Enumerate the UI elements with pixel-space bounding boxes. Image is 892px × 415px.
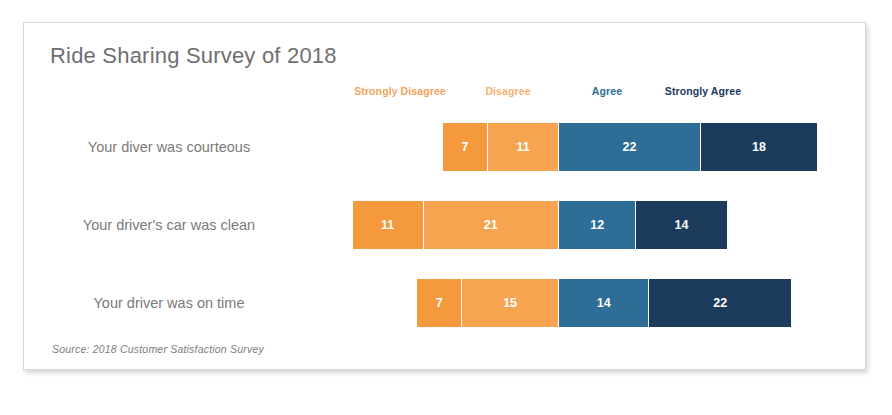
bar-track: 1571422 (24, 279, 865, 327)
bar-row: Your diver was courteous1172218 (24, 123, 865, 171)
legend-item-disagree[interactable]: Disagree (485, 85, 530, 97)
bar-segment-disagree[interactable]: 15 (462, 279, 559, 327)
chart-card: Ride Sharing Survey of 2018 Strongly Dis… (23, 22, 866, 370)
bar-segment-strongly-agree[interactable]: 18 (701, 123, 817, 171)
bar-segment-strongly-disagree[interactable]: 11 (353, 201, 424, 249)
legend-item-strongly-disagree[interactable]: Strongly Disagree (354, 85, 446, 97)
bar-segment-agree[interactable]: 14 (559, 279, 649, 327)
bar-segment-strongly-agree[interactable]: 14 (636, 201, 726, 249)
bar-segment-disagree[interactable]: 11 (488, 123, 559, 171)
bar-row: Your driver's car was clean21111214 (24, 201, 865, 249)
bar-segment-strongly-disagree[interactable]: 7 (443, 123, 488, 171)
bar-segment-agree[interactable]: 12 (559, 201, 636, 249)
bar-row: Your driver was on time1571422 (24, 279, 865, 327)
chart-legend: Strongly DisagreeDisagreeAgreeStrongly A… (24, 85, 865, 101)
bar-track: 1172218 (24, 123, 865, 171)
page-title: Ride Sharing Survey of 2018 (50, 43, 337, 69)
chart-plot-area: Your diver was courteous1172218Your driv… (24, 105, 865, 325)
legend-item-agree[interactable]: Agree (592, 85, 622, 97)
legend-item-strongly-agree[interactable]: Strongly Agree (665, 85, 741, 97)
bar-segment-strongly-agree[interactable]: 22 (649, 279, 791, 327)
bar-track: 21111214 (24, 201, 865, 249)
bar-segment-strongly-disagree[interactable]: 7 (417, 279, 462, 327)
bar-segment-agree[interactable]: 22 (559, 123, 701, 171)
source-note: Source: 2018 Customer Satisfaction Surve… (52, 343, 264, 355)
bar-segment-disagree[interactable]: 21 (424, 201, 559, 249)
